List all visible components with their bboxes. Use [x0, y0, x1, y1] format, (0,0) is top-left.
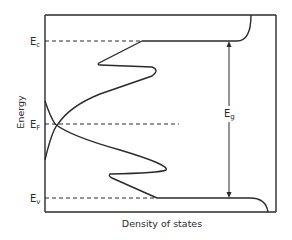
- x-axis-label: Density of states: [122, 218, 202, 229]
- valence-band-curve: [157, 198, 268, 212]
- eg-label: Eg: [224, 108, 235, 121]
- ev-label: Ev: [30, 193, 40, 206]
- ec-label: Ec: [30, 36, 40, 49]
- gap-states-lower-curve: [45, 101, 166, 198]
- conduction-band-curve: [142, 15, 251, 41]
- gap-states-curve: [45, 41, 156, 160]
- density-of-states-diagram: Ec EF Ev Eg Energy Density of states: [0, 0, 292, 240]
- arrow-up-head: [227, 41, 232, 47]
- plot-frame: [45, 15, 276, 212]
- y-axis-label: Energy: [15, 95, 26, 129]
- arrow-down-head: [227, 192, 232, 198]
- ef-label: EF: [30, 119, 40, 132]
